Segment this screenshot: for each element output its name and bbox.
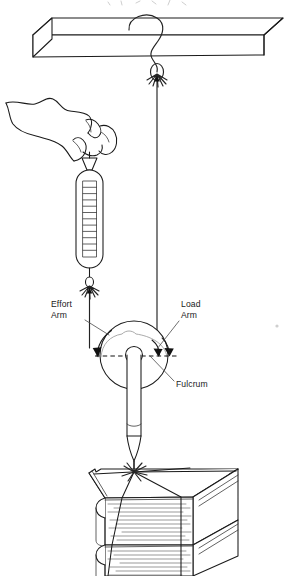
label-effort-arm: Effort Arm [51, 299, 109, 335]
overhead-beam [33, 18, 283, 57]
screwdriver-shaft [127, 355, 141, 472]
load-arm-label-line2: Arm [181, 310, 197, 320]
diagram-canvas: Effort Arm Load Arm Fulcrum [0, 0, 295, 576]
hand-gripping [6, 98, 117, 161]
effort-arm-label-line2: Arm [51, 310, 67, 320]
effort-arm-label-line1: Effort [51, 299, 72, 309]
mechanics-diagram: Effort Arm Load Arm Fulcrum [0, 0, 295, 576]
top-cut-text [108, 0, 186, 5]
spring-scale [76, 152, 103, 348]
beam-rope-and-knot [129, 15, 167, 330]
book-stack [89, 469, 238, 576]
load-arm-label-line1: Load [181, 299, 201, 309]
page-speck [275, 324, 278, 327]
fulcrum-label: Fulcrum [176, 379, 208, 389]
